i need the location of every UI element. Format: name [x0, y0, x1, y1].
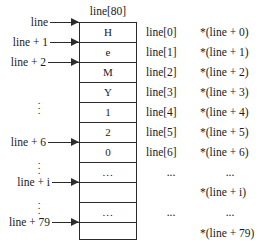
index-notation-text: line[2] [146, 66, 177, 78]
array-cell-value: H [104, 27, 112, 38]
array-cell: 0 [80, 143, 136, 163]
index-notation-ellipsis: ... [146, 205, 196, 219]
pointer-label-text: line + 2 [2, 56, 46, 68]
pointer-label-text: line + 79 [0, 216, 50, 228]
deref-notation-line-6: *(line + 6) [200, 145, 260, 159]
array-cell-value: 0 [105, 147, 111, 158]
index-notation-text: line[3] [146, 86, 177, 98]
array-cell: e [80, 43, 136, 63]
deref-notation-ellipsis: ... [200, 205, 260, 219]
deref-notation-ellipsis: ... [200, 165, 260, 179]
index-notation-line-0: line[0] [146, 25, 196, 39]
deref-notation-text: ... [226, 206, 235, 218]
pointer-label-line-plus-1: line + 1 [4, 35, 79, 49]
vertical-ellipsis-icon: ... [34, 198, 44, 213]
deref-notation-line-0: *(line + 0) [200, 25, 260, 39]
deref-notation-line-i: *(line + i) [200, 185, 260, 199]
index-notation-text: line[4] [146, 106, 177, 118]
array-cell: ... [80, 203, 136, 223]
index-notation-line-4: line[4] [146, 105, 196, 119]
pointer-label-text: line + 6 [2, 136, 46, 148]
arrow-right-icon [50, 37, 79, 47]
deref-notation-text: *(line + 0) [200, 26, 249, 38]
array-cell-value: M [103, 67, 113, 78]
deref-notation-line-1: *(line + 1) [200, 45, 260, 59]
arrow-right-icon [52, 217, 79, 227]
vertical-ellipsis-icon: ... [34, 98, 44, 113]
array-cell-value: Y [104, 87, 112, 98]
index-notation-text: line[5] [146, 126, 177, 138]
arrow-right-icon [50, 17, 79, 27]
deref-notation-text: *(line + 6) [200, 146, 249, 158]
index-notation-text: line[1] [146, 46, 177, 58]
array-cell-value: 2 [105, 127, 111, 138]
index-notation-line-3: line[3] [146, 85, 196, 99]
index-notation-text: line[6] [146, 146, 177, 158]
array-box: H e M Y 1 2 0 ... ... [79, 22, 137, 240]
array-cell: 2 [80, 123, 136, 143]
pointer-label-text: line + 1 [4, 36, 48, 48]
pointer-label-line-plus-i: line + i [8, 175, 79, 189]
index-notation-line-2: line[2] [146, 65, 196, 79]
array-cell: H [80, 23, 136, 43]
pointer-label-text: line + i [8, 176, 50, 188]
deref-notation-text: *(line + 5) [200, 126, 249, 138]
pointer-label-line-plus-6: line + 6 [2, 135, 79, 149]
array-cell: 1 [80, 103, 136, 123]
arrow-right-icon [52, 177, 79, 187]
index-notation-line-6: line[6] [146, 145, 196, 159]
arrow-right-icon [48, 137, 79, 147]
array-cell [80, 223, 136, 238]
deref-notation-text: *(line + 4) [200, 106, 249, 118]
array-cell-value: e [106, 47, 111, 58]
array-caption: line[80] [79, 5, 137, 17]
index-notation-line-5: line[5] [146, 125, 196, 139]
vertical-ellipsis-icon: ... [34, 158, 44, 173]
index-notation-ellipsis: ... [146, 165, 196, 179]
deref-notation-line-79: *(line + 79) [200, 226, 260, 240]
array-pointer-diagram: line[80] H e M Y 1 2 0 ... ... line line… [0, 0, 260, 252]
deref-notation-text: *(line + 1) [200, 46, 249, 58]
deref-notation-line-3: *(line + 3) [200, 85, 260, 99]
deref-notation-text: *(line + 2) [200, 66, 249, 78]
array-cell: Y [80, 83, 136, 103]
deref-notation-text: ... [226, 166, 235, 178]
pointer-label-line: line [26, 15, 79, 29]
array-cell: ... [80, 163, 136, 183]
array-cell-ellipsis: ... [102, 207, 113, 218]
arrow-right-icon [48, 57, 79, 67]
array-cell: M [80, 63, 136, 83]
index-notation-line-1: line[1] [146, 45, 196, 59]
index-notation-text: line[0] [146, 26, 177, 38]
array-cell-value: 1 [105, 107, 111, 118]
pointer-label-line-plus-2: line + 2 [2, 55, 79, 69]
deref-notation-text: *(line + 79) [200, 227, 254, 239]
index-notation-text: ... [167, 206, 176, 218]
deref-notation-line-4: *(line + 4) [200, 105, 260, 119]
pointer-label-line-plus-79: line + 79 [0, 215, 79, 229]
array-cell-ellipsis: ... [102, 167, 113, 178]
deref-notation-text: *(line + i) [200, 186, 246, 198]
deref-notation-line-2: *(line + 2) [200, 65, 260, 79]
index-notation-text: ... [167, 166, 176, 178]
pointer-label-text: line [26, 16, 48, 28]
deref-notation-text: *(line + 3) [200, 86, 249, 98]
deref-notation-line-5: *(line + 5) [200, 125, 260, 139]
array-cell [80, 183, 136, 203]
